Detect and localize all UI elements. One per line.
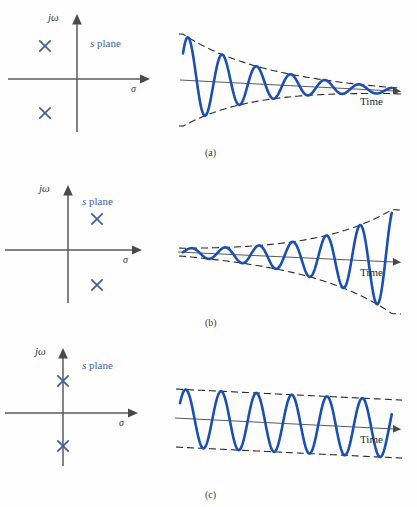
figure-canvas (0, 0, 417, 507)
envelope-lower-c (176, 447, 402, 458)
jomega-axis-label-a: jω (48, 12, 59, 23)
time-label-c: Time (360, 434, 383, 445)
splane-label-b: s plane (82, 196, 113, 207)
pole-location-response-figure: jωσs planeTime(a)jωσs planeTime(b)jωσs p… (0, 0, 417, 507)
response-waveform-b (183, 213, 392, 304)
panel-caption-b: (b) (205, 318, 217, 328)
splane-label-c: s plane (82, 360, 113, 371)
splane-label-a: s plane (90, 38, 121, 49)
envelope-upper-a (179, 34, 401, 88)
jomega-axis-label-c: jω (35, 346, 46, 357)
time-label-a: Time (360, 96, 383, 107)
sigma-axis-label-c: σ (119, 418, 124, 428)
panel-caption-a: (a) (205, 148, 216, 158)
sigma-axis-label-b: σ (123, 255, 128, 265)
time-label-b: Time (360, 267, 383, 278)
panel-caption-c: (c) (205, 490, 216, 500)
jomega-axis-label-b: jω (39, 183, 50, 194)
sigma-axis-label-a: σ (131, 84, 136, 94)
